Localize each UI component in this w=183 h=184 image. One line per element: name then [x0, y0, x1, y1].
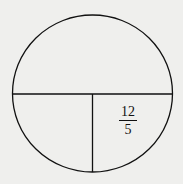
fraction-label: 12 5: [118, 105, 138, 137]
fraction-denominator: 5: [118, 123, 138, 137]
fraction-numerator: 12: [118, 105, 138, 119]
circle-diagram: [0, 0, 183, 184]
fraction-bar: [119, 120, 137, 121]
